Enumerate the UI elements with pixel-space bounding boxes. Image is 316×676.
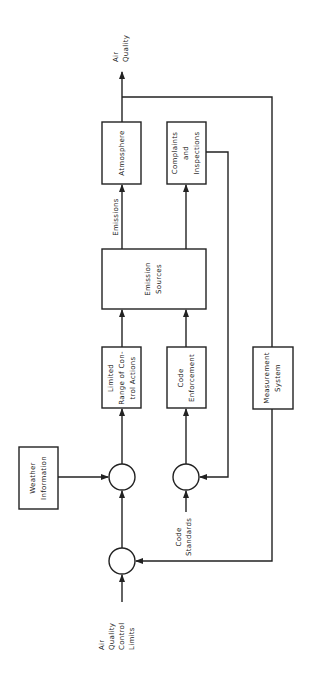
code-standards-label-2: Standards [185,518,193,556]
summing-junction-2 [173,464,199,490]
control-limits-label-4: Limits [128,627,136,650]
measurement-label-1: Measurement [263,352,271,403]
atmosphere-label: Atmosphere [118,130,126,175]
weather-label-1: Weather [29,462,37,494]
complaints-feedback-arrow [200,152,228,477]
block-emission-sources: Emission Sources [102,249,206,309]
summing-junction-3 [109,548,135,574]
control-limits-label-3: Control [118,623,126,650]
code-enforcement-label-1: Code [177,368,185,387]
connections [58,72,272,602]
complaints-label-3: Inspections [193,131,201,174]
summing-junction-1 [109,464,135,490]
limited-range-label-1: Limited [107,364,115,392]
emissions-label: Emissions [112,198,120,236]
block-limited-range: Limited Range of Con- trol Actions [102,347,141,408]
air-quality-control-diagram: Atmosphere Complaints and Inspections Em… [0,0,316,676]
limited-range-label-3: trol Actions [129,356,137,399]
limited-range-label-2: Range of Con- [118,351,126,405]
code-enforcement-label-2: Enforcement [188,354,196,402]
block-atmosphere: Atmosphere [102,122,141,184]
block-measurement-system: Measurement System [253,347,293,409]
block-complaints: Complaints and Inspections [167,122,206,184]
complaints-label-2: and [182,146,190,160]
code-standards-label-1: Code [175,527,183,546]
emission-sources-label-1: Emission [144,262,152,296]
measurement-label-2: System [274,364,282,392]
control-limits-label-1: Air [98,639,106,650]
measurement-to-junction3-arrow [136,409,272,561]
air-quality-label-1: Air [112,51,120,62]
block-code-enforcement: Code Enforcement [167,347,206,408]
control-limits-label-2: Quality [108,623,116,650]
air-quality-label-2: Quality [122,35,130,62]
emission-sources-label-2: Sources [155,264,163,294]
complaints-label-1: Complaints [171,132,179,174]
weather-label-2: Information [40,456,48,500]
block-weather-information: Weather Information [19,447,58,509]
